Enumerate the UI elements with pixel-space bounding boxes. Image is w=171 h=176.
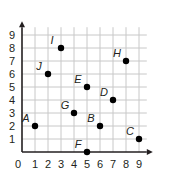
point-marker — [71, 110, 77, 116]
point-b: B — [87, 112, 103, 129]
point-j: J — [35, 60, 51, 77]
coordinate-grid: 0123456789123456789 ABCDEFGHIJ — [0, 0, 171, 176]
x-tick-label: 9 — [136, 158, 142, 170]
point-label: C — [126, 125, 134, 137]
data-points: ABCDEFGHIJ — [21, 34, 142, 155]
x-tick-label: 8 — [123, 158, 129, 170]
x-axis-arrow-icon — [147, 149, 153, 155]
point-i: I — [50, 34, 64, 51]
y-tick-label: 7 — [9, 55, 15, 67]
point-label: H — [113, 47, 121, 59]
point-marker — [32, 123, 38, 129]
point-label: E — [74, 73, 82, 85]
x-tick-label: 1 — [32, 158, 38, 170]
y-tick-label: 6 — [9, 68, 15, 80]
y-tick-label: 5 — [9, 81, 15, 93]
y-tick-label: 4 — [9, 94, 15, 106]
x-tick-label: 2 — [45, 158, 51, 170]
x-tick-label: 5 — [84, 158, 90, 170]
y-tick-label: 1 — [9, 133, 15, 145]
point-label: G — [61, 99, 70, 111]
point-marker — [84, 84, 90, 90]
point-marker — [45, 71, 51, 77]
y-tick-label: 9 — [9, 29, 15, 41]
point-marker — [84, 149, 90, 155]
point-label: I — [50, 34, 53, 46]
x-tick-label: 7 — [110, 158, 116, 170]
y-axis-arrow-icon — [19, 21, 25, 27]
point-label: D — [100, 86, 108, 98]
point-g: G — [61, 99, 77, 116]
point-marker — [97, 123, 103, 129]
point-marker — [110, 97, 116, 103]
point-label: A — [21, 112, 29, 124]
point-a: A — [21, 112, 38, 129]
point-label: F — [75, 138, 83, 150]
point-h: H — [113, 47, 129, 64]
point-c: C — [126, 125, 142, 142]
point-marker — [123, 58, 129, 64]
point-label: B — [87, 112, 94, 124]
point-marker — [136, 136, 142, 142]
point-label: J — [35, 60, 42, 72]
y-tick-label: 3 — [9, 107, 15, 119]
point-marker — [58, 45, 64, 51]
point-e: E — [74, 73, 90, 90]
y-tick-label: 8 — [9, 42, 15, 54]
x-tick-label: 3 — [58, 158, 64, 170]
x-tick-label: 0 — [15, 158, 21, 170]
point-d: D — [100, 86, 116, 103]
x-tick-label: 6 — [97, 158, 103, 170]
x-tick-label: 4 — [71, 158, 77, 170]
y-tick-label: 2 — [9, 120, 15, 132]
